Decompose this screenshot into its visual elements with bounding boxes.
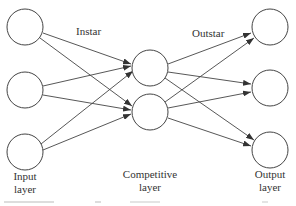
competitive-layer	[132, 50, 168, 130]
input-layer	[7, 9, 43, 170]
competitive-node-2	[132, 94, 168, 130]
edge-comp1-output3	[165, 78, 254, 140]
edge-comp2-output2	[168, 92, 251, 108]
instar-label: Instar	[76, 25, 101, 37]
input-layer-label-line2: layer	[14, 183, 36, 195]
output-layer-label-line2: layer	[259, 181, 281, 193]
cropped-caption-fragment	[4, 201, 268, 203]
input-node-2	[7, 72, 43, 108]
edge-comp2-output1	[165, 38, 254, 102]
network-diagram: Instar Outstar Input layer Competitive l…	[0, 0, 296, 206]
competitive-layer-label-line1: Competitive	[123, 168, 178, 180]
competitive-layer-label-line2: layer	[139, 181, 161, 193]
edge-comp1-output2	[168, 72, 251, 84]
competitive-node-1	[132, 50, 168, 86]
edge-input1-comp1	[43, 33, 131, 64]
input-node-3	[7, 134, 43, 170]
instar-connections	[40, 33, 133, 150]
output-layer	[252, 9, 288, 168]
edge-comp2-output3	[168, 118, 251, 146]
outstar-label: Outstar	[192, 27, 225, 39]
output-layer-label-line1: Output	[255, 168, 286, 180]
input-layer-label-line1: Input	[13, 170, 36, 182]
outstar-connections	[165, 33, 254, 146]
output-node-1	[252, 9, 288, 45]
edge-input3-comp1	[41, 71, 133, 144]
input-node-1	[7, 9, 43, 45]
output-node-2	[252, 70, 288, 106]
output-node-3	[252, 132, 288, 168]
